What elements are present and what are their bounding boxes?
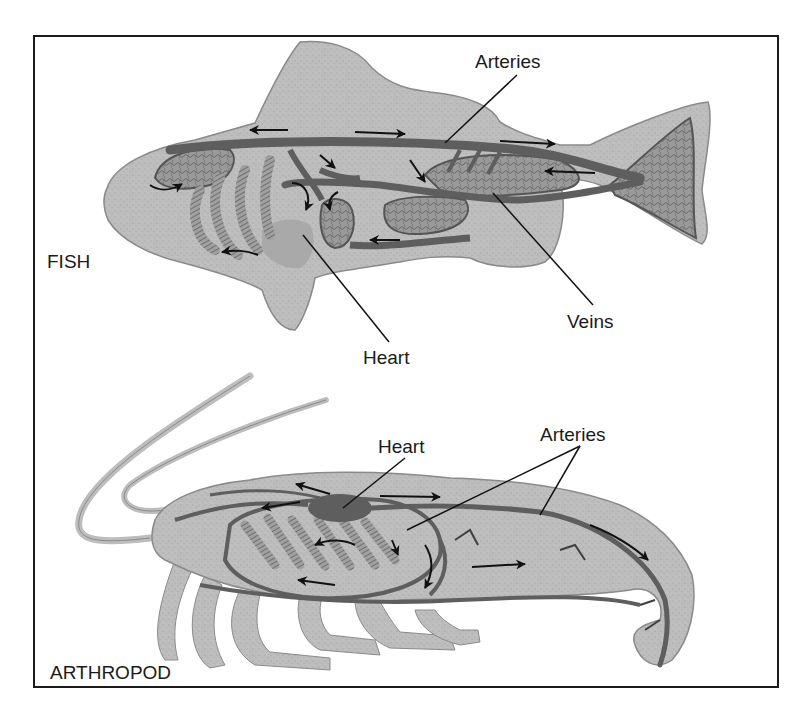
arthropod-arteries-label: Arteries [540, 425, 605, 444]
arthropod-heart-label: Heart [378, 437, 424, 456]
fish-name-label: FISH [47, 252, 90, 271]
fish-drawing [104, 42, 710, 342]
fish-body-capillaries [425, 155, 579, 196]
fish-heart-label: Heart [363, 348, 409, 367]
fish-arteries-label: Arteries [475, 52, 540, 71]
fish-veins-label: Veins [567, 312, 613, 331]
fish-liver [321, 199, 354, 248]
arthropod-drawing [79, 376, 694, 670]
arthropod-name-label: ARTHROPOD [50, 663, 171, 682]
